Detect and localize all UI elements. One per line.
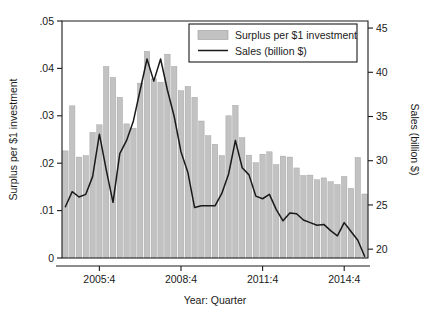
left-axis-tick-label: 0 xyxy=(48,252,54,264)
legend: Surplus per $1 investmentSales (billion … xyxy=(189,24,357,62)
bar xyxy=(178,91,183,258)
bar xyxy=(83,156,88,258)
left-axis-tick-label: .03 xyxy=(39,109,54,121)
x-axis-tick-label: 2014:4 xyxy=(328,273,360,285)
x-axis-title: Year: Quarter xyxy=(184,294,247,306)
bar-series xyxy=(63,51,368,258)
x-axis: 2005:42008:42011:42014:4 xyxy=(56,266,370,285)
right-axis: 202530354045 xyxy=(368,22,388,255)
legend-label-surplus: Surplus per $1 investment xyxy=(235,29,357,41)
left-axis-title: Surplus per $1 investment xyxy=(7,78,19,200)
bar xyxy=(287,157,292,258)
bar xyxy=(171,67,176,259)
bar xyxy=(219,156,224,258)
bar xyxy=(335,185,340,258)
x-axis-tick-label: 2011:4 xyxy=(247,273,278,285)
bar xyxy=(151,79,156,258)
bar xyxy=(348,188,353,258)
bar xyxy=(267,152,272,258)
right-axis-tick-label: 45 xyxy=(376,22,388,34)
bar xyxy=(233,105,238,258)
bar xyxy=(239,138,244,258)
bar xyxy=(321,178,326,258)
right-axis-tick-label: 35 xyxy=(376,110,388,122)
bar xyxy=(301,176,306,258)
bar xyxy=(131,128,136,258)
bar xyxy=(260,154,265,258)
bar xyxy=(69,106,74,258)
right-axis-tick-label: 20 xyxy=(376,243,388,255)
bar xyxy=(110,77,115,258)
left-axis-tick-label: .05 xyxy=(39,15,54,27)
right-axis-tick-label: 25 xyxy=(376,199,388,211)
left-axis-tick-label: .04 xyxy=(39,62,54,74)
x-axis-tick-label: 2005:4 xyxy=(83,273,115,285)
right-axis-tick-label: 30 xyxy=(376,154,388,166)
bar xyxy=(63,151,68,258)
bar xyxy=(137,83,142,258)
left-axis-tick-label: .01 xyxy=(39,204,54,216)
bar xyxy=(328,182,333,258)
bar xyxy=(307,175,312,258)
bar xyxy=(158,82,163,258)
bar xyxy=(76,157,81,258)
right-axis-title: Sales (billion $) xyxy=(409,104,421,176)
bar xyxy=(253,163,258,258)
bar xyxy=(246,155,251,258)
right-axis-tick-label: 40 xyxy=(376,66,388,78)
left-axis: 0.01.02.03.04.05 xyxy=(39,15,62,264)
chart-container: 0.01.02.03.04.052025303540452005:42008:4… xyxy=(0,0,427,321)
x-axis-tick-label: 2008:4 xyxy=(165,273,197,285)
bar xyxy=(117,97,122,258)
bar xyxy=(341,176,346,258)
bar xyxy=(280,156,285,258)
bar xyxy=(226,116,231,258)
bar xyxy=(314,180,319,258)
bar xyxy=(192,97,197,258)
bar xyxy=(205,136,210,258)
left-axis-tick-label: .02 xyxy=(39,157,54,169)
bar xyxy=(144,51,149,258)
legend-label-sales: Sales (billion $) xyxy=(235,45,307,57)
bar xyxy=(199,121,204,258)
legend-bar-swatch xyxy=(198,31,228,40)
surplus-sales-chart: 0.01.02.03.04.052025303540452005:42008:4… xyxy=(0,0,427,321)
bar xyxy=(90,132,95,258)
bar xyxy=(362,194,367,258)
